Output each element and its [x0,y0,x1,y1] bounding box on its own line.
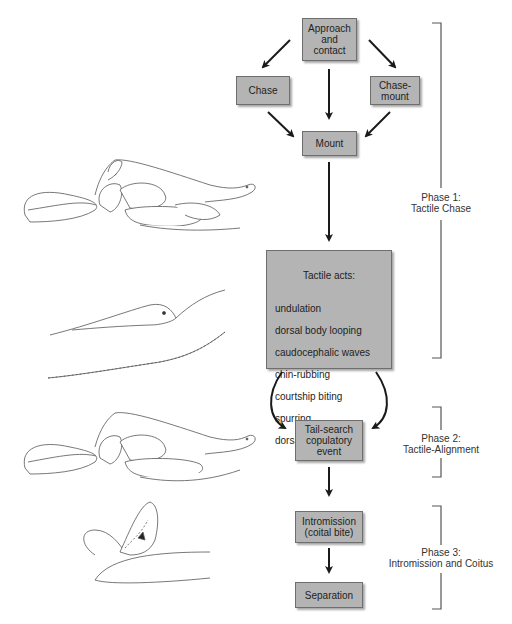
node-separation: Separation [295,582,363,608]
node-intromission: Intromission (coital bite) [295,511,363,543]
tactile-act-item: dorsal body looping [275,325,383,336]
phase-3-bracket-top [432,506,441,545]
mounted-snakes-drawing-1 [24,160,255,230]
phase-2-bracket-bottom [432,458,441,477]
node-tail-search-copulatory-event: Tail-search copulatory event [295,420,363,461]
phase-2-bracket-top [432,407,441,430]
arrow-chase-to-mount [268,112,293,136]
phase-3-label: Phase 3: Intromission and Coitus [385,545,497,571]
phase-3-bracket-bottom [432,573,441,609]
arrow-chase-mount-to-mount [366,112,390,136]
node-tactile-acts: Tactile acts: undulation dorsal body loo… [266,250,392,369]
phase-2-label: Phase 2: Tactile-Alignment [399,431,483,457]
node-chase: Chase [236,76,290,105]
tactile-acts-snake-head-drawing [48,290,225,378]
phase-brackets [432,23,441,609]
tactile-acts-title: Tactile acts: [275,270,383,281]
node-approach-and-contact: Approach and contact [302,18,357,61]
coital-bite-drawing [84,502,210,583]
mounted-snakes-drawing-2 [24,413,255,481]
phase-1-label: Phase 1: Tactile Chase [409,190,473,216]
tactile-act-item: chin-rubbing [275,369,383,380]
node-mount: Mount [302,131,357,156]
arrow-approach-to-chase-mount [369,40,395,67]
phase-1-bracket-bottom [432,220,441,358]
phase-1-bracket-top [432,23,441,188]
tactile-act-item: courtship biting [275,391,383,402]
tactile-act-item: undulation [275,303,383,314]
tactile-act-item: caudocephalic waves [275,347,383,358]
node-chase-mount: Chase- mount [370,76,420,105]
arrow-approach-to-chase [263,40,290,67]
